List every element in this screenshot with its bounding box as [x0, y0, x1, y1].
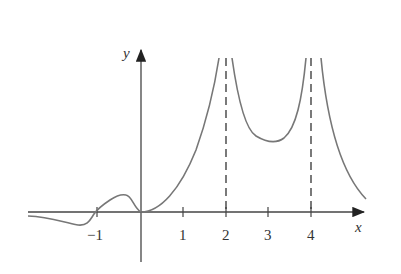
tick-label-2: 2	[222, 227, 230, 243]
curve	[28, 58, 366, 225]
function-plot: y x −1 1 2 3 4	[0, 0, 401, 274]
tick-label-3: 3	[264, 227, 272, 243]
tick-label-minus1: −1	[87, 227, 103, 243]
graph: y x −1 1 2 3 4	[0, 0, 401, 274]
tick-label-1: 1	[179, 227, 187, 243]
asymptotes	[226, 58, 311, 212]
tick-label-4: 4	[307, 227, 315, 243]
x-label: x	[354, 219, 362, 235]
y-label: y	[121, 45, 130, 61]
